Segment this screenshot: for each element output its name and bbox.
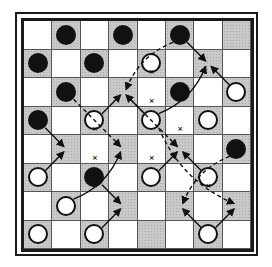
square-r7-c0 (24, 221, 52, 250)
square-r3-c2 (81, 107, 109, 136)
square-r4-c4 (138, 135, 166, 164)
square-r7-c1 (52, 221, 80, 250)
square-r5-c1 (52, 164, 80, 193)
white-checker-piece (198, 167, 218, 187)
black-checker-piece (84, 53, 104, 73)
square-r2-c5 (166, 78, 194, 107)
square-r3-c0 (24, 107, 52, 136)
square-r2-c3 (109, 78, 137, 107)
square-r1-c5 (166, 50, 194, 79)
square-r5-c7 (223, 164, 251, 193)
square-r2-c7 (223, 78, 251, 107)
square-r5-c6 (194, 164, 222, 193)
white-checker-piece (141, 167, 161, 187)
square-r3-c1 (52, 107, 80, 136)
black-checker-piece (170, 82, 190, 102)
square-r0-c6 (194, 21, 222, 50)
square-r5-c2 (81, 164, 109, 193)
square-r5-c5 (166, 164, 194, 193)
square-r3-c3 (109, 107, 137, 136)
square-r7-c4 (138, 221, 166, 250)
square-r6-c2 (81, 192, 109, 221)
square-r0-c4 (138, 21, 166, 50)
square-r4-c5 (166, 135, 194, 164)
square-r1-c1 (52, 50, 80, 79)
square-r0-c3 (109, 21, 137, 50)
black-checker-piece (170, 25, 190, 45)
black-checker-piece (28, 110, 48, 130)
square-r3-c5 (166, 107, 194, 136)
square-r3-c4 (138, 107, 166, 136)
square-r4-c6 (194, 135, 222, 164)
square-r6-c7 (223, 192, 251, 221)
square-r6-c6 (194, 192, 222, 221)
square-r5-c4 (138, 164, 166, 193)
square-r2-c1 (52, 78, 80, 107)
square-r4-c3 (109, 135, 137, 164)
black-checker-piece (113, 25, 133, 45)
white-checker-piece (226, 82, 246, 102)
black-checker-piece (28, 53, 48, 73)
square-r2-c6 (194, 78, 222, 107)
square-r4-c7 (223, 135, 251, 164)
square-r1-c4 (138, 50, 166, 79)
white-checker-piece (56, 196, 76, 216)
square-r4-c2 (81, 135, 109, 164)
white-checker-piece (28, 224, 48, 244)
square-r2-c0 (24, 78, 52, 107)
black-checker-piece (56, 25, 76, 45)
square-r7-c7 (223, 221, 251, 250)
white-checker-piece (28, 167, 48, 187)
white-checker-piece (198, 224, 218, 244)
square-r0-c1 (52, 21, 80, 50)
square-r7-c5 (166, 221, 194, 250)
square-r5-c3 (109, 164, 137, 193)
black-checker-piece (56, 82, 76, 102)
white-checker-piece (198, 110, 218, 130)
square-r5-c0 (24, 164, 52, 193)
square-r1-c7 (223, 50, 251, 79)
square-r3-c6 (194, 107, 222, 136)
square-r6-c3 (109, 192, 137, 221)
square-r2-c2 (81, 78, 109, 107)
white-checker-piece (84, 224, 104, 244)
square-r4-c1 (52, 135, 80, 164)
square-r2-c4 (138, 78, 166, 107)
white-checker-piece (141, 110, 161, 130)
square-r6-c4 (138, 192, 166, 221)
white-checker-piece (141, 53, 161, 73)
square-r7-c6 (194, 221, 222, 250)
checkerboard (24, 21, 251, 249)
black-checker-piece (84, 167, 104, 187)
square-r0-c5 (166, 21, 194, 50)
square-r1-c6 (194, 50, 222, 79)
square-r0-c7 (223, 21, 251, 50)
white-checker-piece (84, 110, 104, 130)
square-r1-c2 (81, 50, 109, 79)
square-r6-c5 (166, 192, 194, 221)
square-r0-c2 (81, 21, 109, 50)
black-checker-piece (226, 139, 246, 159)
square-r7-c2 (81, 221, 109, 250)
square-r1-c3 (109, 50, 137, 79)
square-r7-c3 (109, 221, 137, 250)
square-r1-c0 (24, 50, 52, 79)
square-r4-c0 (24, 135, 52, 164)
square-r3-c7 (223, 107, 251, 136)
square-r6-c0 (24, 192, 52, 221)
square-r6-c1 (52, 192, 80, 221)
square-r0-c0 (24, 21, 52, 50)
